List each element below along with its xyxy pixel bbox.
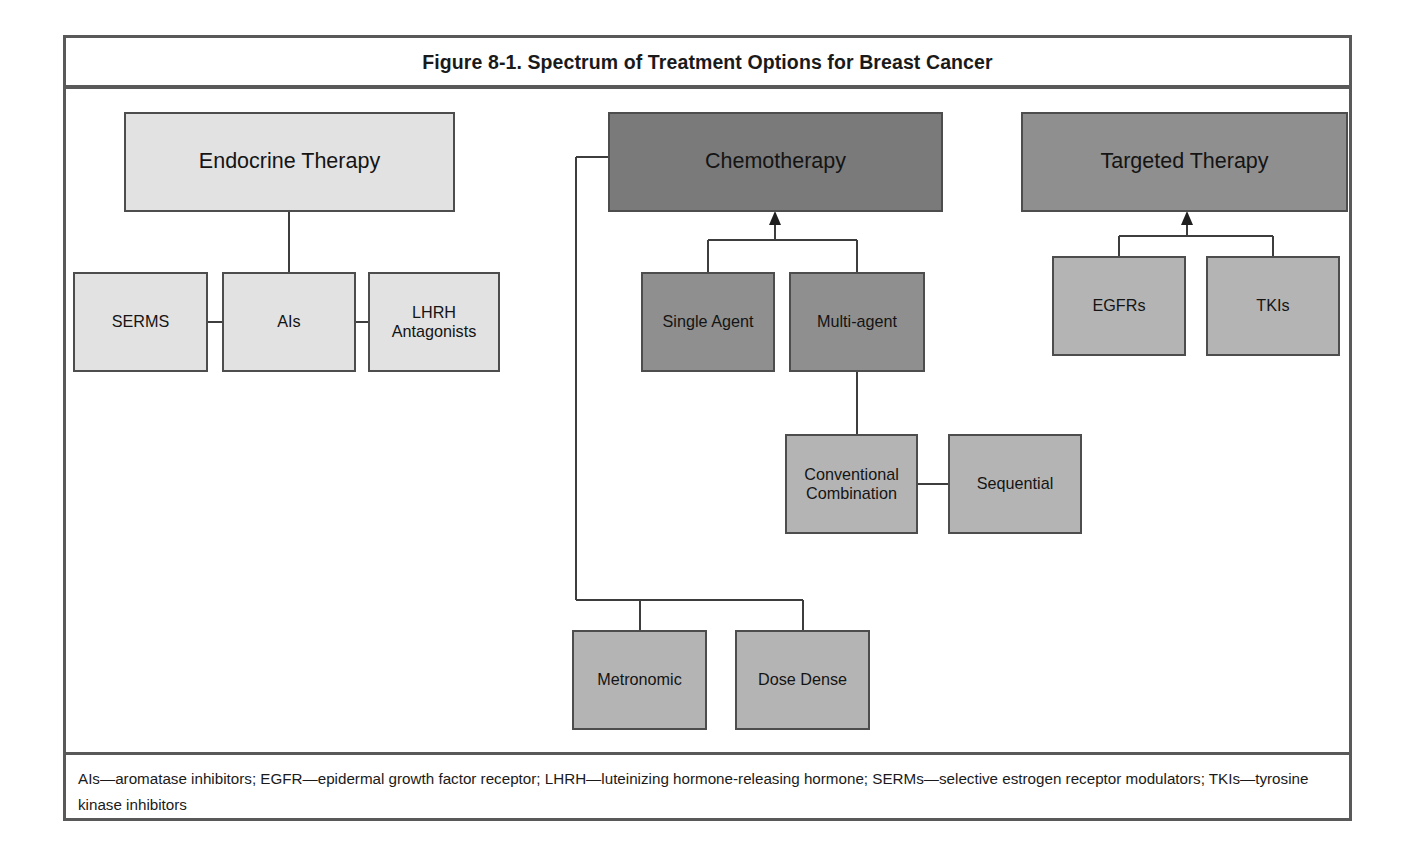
node-label: SERMS <box>108 312 174 331</box>
node-label: Targeted Therapy <box>1096 149 1272 174</box>
node-serms[interactable]: SERMS <box>73 272 208 372</box>
figure-title-bar: Figure 8-1. Spectrum of Treatment Option… <box>66 38 1349 87</box>
node-tkis[interactable]: TKIs <box>1206 256 1340 356</box>
node-label: TKIs <box>1252 296 1293 315</box>
node-lhrh-antagonists[interactable]: LHRH Antagonists <box>368 272 500 372</box>
node-targeted-therapy[interactable]: Targeted Therapy <box>1021 112 1348 212</box>
node-single-agent[interactable]: Single Agent <box>641 272 775 372</box>
figure-footnote: AIs—aromatase inhibitors; EGFR—epidermal… <box>78 766 1333 818</box>
node-label: AIs <box>273 312 304 331</box>
page-title: Figure 8-1. Spectrum of Treatment Option… <box>422 51 992 74</box>
node-label: Single Agent <box>659 312 758 331</box>
figure-container: Figure 8-1. Spectrum of Treatment Option… <box>0 0 1415 856</box>
node-dose-dense[interactable]: Dose Dense <box>735 630 870 730</box>
node-egfrs[interactable]: EGFRs <box>1052 256 1186 356</box>
node-label: LHRH Antagonists <box>388 303 481 341</box>
node-label: Metronomic <box>593 670 686 689</box>
node-label: Dose Dense <box>754 670 851 689</box>
node-chemotherapy[interactable]: Chemotherapy <box>608 112 943 212</box>
node-label: Sequential <box>973 474 1058 493</box>
node-label: EGFRs <box>1088 296 1149 315</box>
node-conventional-combination[interactable]: Conventional Combination <box>785 434 918 534</box>
node-label: Chemotherapy <box>701 149 850 174</box>
node-label: Multi-agent <box>813 312 901 331</box>
node-ais[interactable]: AIs <box>222 272 356 372</box>
node-endocrine-therapy[interactable]: Endocrine Therapy <box>124 112 455 212</box>
node-label: Endocrine Therapy <box>195 149 384 174</box>
node-multi-agent[interactable]: Multi-agent <box>789 272 925 372</box>
node-label: Conventional Combination <box>800 465 903 503</box>
node-metronomic[interactable]: Metronomic <box>572 630 707 730</box>
node-sequential[interactable]: Sequential <box>948 434 1082 534</box>
footnote-divider <box>66 752 1349 755</box>
title-divider <box>66 85 1349 89</box>
